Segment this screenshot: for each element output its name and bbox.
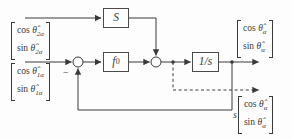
input-vector-2alpha: cosθ̂2α sinθ̂2α — [11, 22, 50, 64]
block-integrator-label: 1/s — [199, 56, 212, 68]
matrix-row: sinθ̂α — [243, 39, 267, 57]
block-diagram-figure: S f0 1/s − cosθ̂2α sinθ̂2α cosθ̂1α sinθ̂… — [0, 0, 292, 139]
matrix-bracket-right — [269, 96, 273, 134]
matrix-row: sinθ̂1α — [17, 82, 44, 100]
block-integrator: 1/s — [192, 52, 219, 72]
feedback-minus-sign: − — [63, 68, 69, 78]
branch-dot-derivative — [171, 60, 175, 64]
output-vector-alpha: cosθ̂α sinθ̂α — [237, 20, 273, 62]
block-s-gain: S — [103, 8, 129, 28]
summing-junction-1 — [73, 57, 83, 67]
input-vector-1alpha: cosθ̂1α sinθ̂1α — [11, 63, 50, 105]
matrix-bracket-right — [46, 63, 50, 101]
matrix-row: cosθ̂1α — [17, 64, 44, 82]
block-f0-sub: 0 — [116, 58, 120, 66]
matrix-row: cosθ̂2α — [17, 23, 44, 41]
matrix-bracket-right — [269, 20, 273, 58]
branch-dot-feedback — [230, 60, 234, 64]
matrix-bracket-right — [46, 22, 50, 60]
signal-s-to-sum2 — [129, 18, 156, 56]
matrix-row: sinθ̂α — [244, 115, 268, 133]
derivative-output-vector: s cosθ̂α sinθ̂α — [233, 96, 273, 134]
matrix-row: cosθ̂α — [243, 21, 267, 39]
block-s-label: S — [113, 12, 119, 24]
derivative-coefficient: s — [233, 109, 237, 120]
block-f0: f0 — [103, 52, 129, 72]
matrix-row: sinθ̂2α — [17, 41, 44, 59]
summing-junction-2 — [151, 57, 161, 67]
matrix-row: cosθ̂α — [244, 97, 268, 115]
